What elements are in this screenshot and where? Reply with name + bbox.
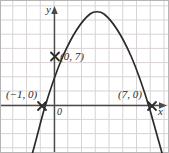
parabola-curve xyxy=(33,12,163,153)
left-root-label: (−1, 0) xyxy=(6,89,37,100)
grid-lines xyxy=(1,1,168,152)
right-root-label: (7, 0) xyxy=(118,89,142,100)
y-axis-label: y xyxy=(46,4,51,15)
graph-canvas xyxy=(0,0,169,153)
origin-label: 0 xyxy=(57,107,62,117)
x-axis-label: x xyxy=(158,106,163,117)
parabola-figure: y x 0 (0, 7) (−1, 0) (7, 0) xyxy=(0,0,169,153)
x-axis xyxy=(1,102,167,109)
point-markers xyxy=(38,53,156,111)
y-intercept-label: (0, 7) xyxy=(60,51,84,62)
